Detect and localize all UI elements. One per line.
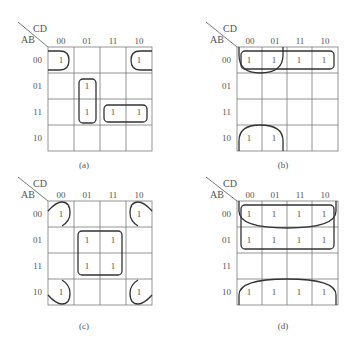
row-label: 10 — [33, 287, 43, 297]
col-label: 01 — [83, 190, 92, 200]
row-var-label: AB — [21, 34, 35, 45]
cell-one: 1 — [137, 287, 142, 297]
cell-one: 1 — [322, 55, 327, 65]
col-label: 10 — [135, 190, 145, 200]
row-label: 01 — [222, 81, 231, 91]
cell-one: 1 — [111, 107, 116, 117]
row-label: 00 — [33, 55, 43, 65]
cell-one: 1 — [322, 287, 327, 297]
cell-one: 1 — [297, 235, 302, 245]
row-label: 01 — [33, 235, 42, 245]
col-label: 10 — [321, 36, 331, 46]
col-var-label: CD — [33, 178, 47, 189]
cell-one: 1 — [59, 209, 64, 219]
cell-one: 1 — [297, 55, 302, 65]
col-label: 10 — [321, 190, 331, 200]
row-label: 00 — [33, 209, 43, 219]
col-label: 11 — [296, 190, 305, 200]
cell-one: 1 — [85, 261, 90, 271]
kmap-panel-b: CD AB 00 01 11 10 00 01 11 10 1 1 1 1 1 … — [175, 0, 351, 171]
kmap-panel-d: CD AB 00 01 11 10 00 01 11 10 1 1 1 1 1 … — [175, 171, 351, 342]
cell-one: 1 — [111, 261, 116, 271]
cell-one: 1 — [272, 235, 277, 245]
cell-one: 1 — [137, 209, 142, 219]
col-label: 00 — [246, 36, 256, 46]
row-label: 10 — [222, 287, 232, 297]
row-label: 11 — [33, 261, 42, 271]
row-label: 01 — [33, 81, 42, 91]
caption: (b) — [278, 160, 289, 170]
row-label: 11 — [33, 107, 42, 117]
caption: (a) — [79, 160, 89, 170]
row-label: 10 — [222, 133, 232, 143]
row-label: 00 — [222, 55, 232, 65]
col-label: 00 — [57, 190, 67, 200]
row-label: 01 — [222, 235, 231, 245]
cell-one: 1 — [247, 133, 252, 143]
cell-one: 1 — [272, 133, 277, 143]
cell-one: 1 — [272, 55, 277, 65]
col-var-label: CD — [223, 23, 237, 34]
cell-one: 1 — [137, 55, 142, 65]
row-var-label: AB — [210, 34, 224, 45]
kmap-panel-c: CD AB 00 01 11 10 00 01 11 10 1 1 1 1 1 … — [0, 171, 175, 342]
col-label: 11 — [109, 190, 118, 200]
cell-one: 1 — [111, 235, 116, 245]
col-label: 11 — [109, 36, 118, 46]
kmap-a: CD AB 00 01 11 10 00 01 11 10 1 1 1 1 1 … — [0, 0, 175, 171]
cell-one: 1 — [297, 209, 302, 219]
cell-one: 1 — [85, 107, 90, 117]
col-label: 11 — [296, 36, 305, 46]
kmap-panel-a: CD AB 00 01 11 10 00 01 11 10 1 1 1 1 1 … — [0, 0, 175, 171]
col-label: 00 — [57, 36, 67, 46]
col-label: 01 — [271, 36, 280, 46]
cell-one: 1 — [59, 287, 64, 297]
row-label: 00 — [222, 209, 232, 219]
cell-one: 1 — [137, 107, 142, 117]
cell-one: 1 — [272, 287, 277, 297]
caption: (c) — [79, 321, 89, 331]
col-label: 01 — [271, 190, 280, 200]
kmap-b: CD AB 00 01 11 10 00 01 11 10 1 1 1 1 1 … — [175, 0, 351, 171]
cell-one: 1 — [272, 209, 277, 219]
row-var-label: AB — [210, 189, 224, 200]
col-label: 01 — [83, 36, 92, 46]
cell-one: 1 — [59, 55, 64, 65]
cell-one: 1 — [85, 235, 90, 245]
row-label: 10 — [33, 133, 43, 143]
row-var-label: AB — [21, 189, 35, 200]
cell-one: 1 — [85, 81, 90, 91]
col-var-label: CD — [33, 23, 47, 34]
row-label: 11 — [222, 261, 231, 271]
kmap-c: CD AB 00 01 11 10 00 01 11 10 1 1 1 1 1 … — [0, 171, 175, 342]
cell-one: 1 — [247, 209, 252, 219]
col-label: 10 — [135, 36, 145, 46]
col-var-label: CD — [223, 178, 237, 189]
cell-one: 1 — [322, 235, 327, 245]
row-label: 11 — [222, 107, 231, 117]
cell-one: 1 — [247, 55, 252, 65]
cell-one: 1 — [247, 235, 252, 245]
kmap-d: CD AB 00 01 11 10 00 01 11 10 1 1 1 1 1 … — [175, 171, 351, 342]
cell-one: 1 — [297, 287, 302, 297]
cell-one: 1 — [247, 287, 252, 297]
col-label: 00 — [246, 190, 256, 200]
cell-one: 1 — [322, 209, 327, 219]
caption: (d) — [278, 321, 289, 331]
